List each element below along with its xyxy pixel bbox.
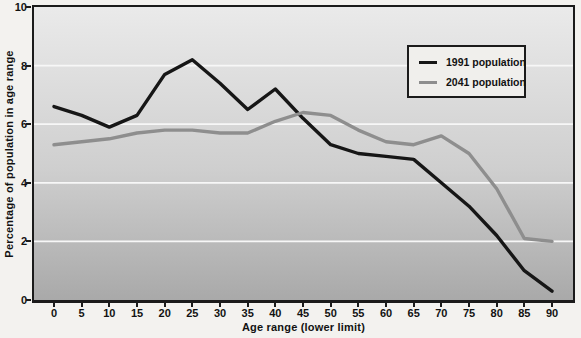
x-tick-label: 25 [180,307,204,320]
legend-item-2041: 2041 population [419,76,514,88]
legend: 1991 population 2041 population [407,45,526,98]
y-tick-mark [26,240,31,242]
legend-label-2041: 2041 population [446,76,526,88]
y-axis-title: Percentage of population in age range [3,50,15,257]
series-line-2041 [54,113,552,242]
x-tick-label: 75 [457,307,481,320]
x-tick-label: 50 [319,307,343,320]
x-tick-mark [385,303,387,307]
x-tick-mark [523,303,525,307]
y-tick-label: 10 [0,1,27,13]
x-axis-title: Age range (lower limit) [32,321,575,333]
line-swatch-2041-icon [419,81,437,84]
x-tick-mark [108,303,110,307]
y-tick-mark [26,65,31,67]
x-tick-mark [551,303,553,307]
x-tick-label: 55 [346,307,370,320]
y-tick-mark [26,6,31,8]
y-tick-mark [26,182,31,184]
line-swatch-1991-icon [419,61,437,64]
y-tick-mark [26,299,31,301]
x-tick-mark [53,303,55,307]
x-tick-mark [136,303,138,307]
x-tick-mark [413,303,415,307]
x-tick-mark [302,303,304,307]
x-tick-mark [440,303,442,307]
x-tick-label: 40 [263,307,287,320]
x-tick-mark [468,303,470,307]
x-tick-mark [274,303,276,307]
x-tick-label: 20 [153,307,177,320]
x-tick-mark [247,303,249,307]
x-tick-label: 80 [485,307,509,320]
legend-item-1991: 1991 population [419,56,514,68]
y-tick-label: 2 [0,235,27,247]
x-tick-mark [191,303,193,307]
x-tick-label: 5 [70,307,94,320]
y-tick-label: 4 [0,177,27,189]
y-tick-label: 6 [0,118,27,130]
x-tick-label: 15 [125,307,149,320]
x-tick-mark [164,303,166,307]
x-tick-label: 35 [236,307,260,320]
x-tick-label: 10 [97,307,121,320]
x-tick-label: 0 [42,307,66,320]
x-tick-label: 45 [291,307,315,320]
x-tick-mark [496,303,498,307]
x-tick-mark [81,303,83,307]
x-tick-label: 60 [374,307,398,320]
x-tick-label: 30 [208,307,232,320]
x-tick-label: 90 [540,307,564,320]
population-line-chart: Percentage of population in age range 02… [0,0,581,338]
x-tick-label: 85 [512,307,536,320]
x-tick-label: 65 [402,307,426,320]
y-tick-mark [26,123,31,125]
x-tick-mark [357,303,359,307]
x-tick-label: 70 [429,307,453,320]
legend-label-1991: 1991 population [446,56,526,68]
x-tick-mark [219,303,221,307]
y-tick-label: 0 [0,294,27,306]
y-tick-label: 8 [0,60,27,72]
x-tick-mark [330,303,332,307]
